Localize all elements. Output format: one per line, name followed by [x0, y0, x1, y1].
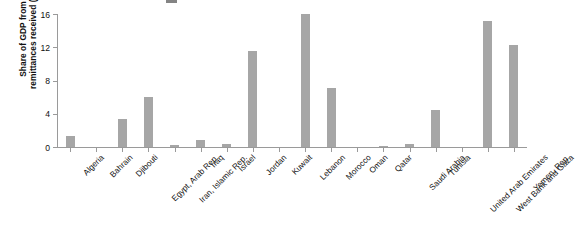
x-axis-tick-label: Oman [368, 153, 390, 175]
x-axis-tick [122, 148, 123, 152]
bar [196, 140, 205, 147]
x-axis-tick [227, 148, 228, 152]
y-axis-tick-label: 12 [40, 43, 50, 53]
x-axis-tick [253, 148, 254, 152]
bar [144, 97, 153, 147]
x-axis-tick-label: Bahrain [108, 153, 134, 179]
x-axis-tick-label: Kuwait [290, 153, 314, 177]
x-axis-tick [148, 148, 149, 152]
x-axis-tick [201, 148, 202, 152]
bar [379, 146, 388, 147]
bar [118, 119, 127, 147]
x-axis-tick [357, 148, 358, 152]
y-axis-tick-label: 16 [40, 10, 50, 20]
bar [66, 136, 75, 147]
x-axis-tick [279, 148, 280, 152]
x-axis-tick [305, 148, 306, 152]
x-axis-tick-label: Qatar [393, 153, 414, 174]
y-axis-tick-label: 8 [45, 76, 50, 86]
bar [431, 110, 440, 147]
x-axis-tick [96, 148, 97, 152]
x-axis-tick-label: Jordan [264, 153, 288, 177]
bar [301, 14, 310, 147]
x-axis-tick [410, 148, 411, 152]
x-axis-labels: AlgeriaBahrainDjiboutiEgypt, Arab Rep.Ir… [57, 153, 527, 240]
x-axis-tick [488, 148, 489, 152]
legend-marker-icon [166, 0, 177, 3]
y-axis-title-text: Share of GDP from remittances received (… [18, 0, 39, 89]
plot-area: 0481216 AlgeriaBahrainDjiboutiEgypt, Ara… [57, 14, 527, 147]
bar [248, 51, 257, 147]
y-axis-tick-label: 0 [45, 143, 50, 153]
bar [170, 145, 179, 147]
y-axis-title: Share of GDP from remittances received (… [13, 0, 43, 109]
x-axis-ticks [57, 148, 527, 152]
x-axis-tick [462, 148, 463, 152]
x-axis-tick [383, 148, 384, 152]
bar [405, 144, 414, 147]
x-axis-tick [175, 148, 176, 152]
x-axis-tick [331, 148, 332, 152]
x-axis-tick [514, 148, 515, 152]
bar [222, 144, 231, 147]
x-axis-tick-label: Lebanon [318, 153, 347, 182]
x-axis-tick-label: Djibouti [134, 153, 160, 179]
bar [327, 88, 336, 147]
x-axis-tick [70, 148, 71, 152]
x-axis-tick-label: Algeria [82, 153, 106, 177]
x-axis-tick [436, 148, 437, 152]
bar [509, 45, 518, 147]
y-axis-tick-label: 4 [45, 109, 50, 119]
bar [483, 21, 492, 147]
bar-series [57, 14, 527, 147]
